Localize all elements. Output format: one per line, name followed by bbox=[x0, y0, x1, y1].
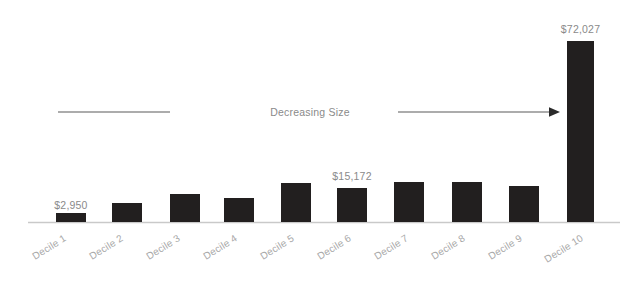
bar-decile-10[interactable] bbox=[567, 41, 594, 222]
x-tick-decile-7: Decile 7 bbox=[372, 232, 410, 261]
chart-canvas: $2,950 $15,172 $72,027 Decreasing Size D… bbox=[0, 0, 637, 284]
bar-decile-4[interactable] bbox=[224, 198, 254, 222]
x-tick-decile-2: Decile 2 bbox=[87, 232, 125, 261]
x-tick-decile-3: Decile 3 bbox=[144, 232, 182, 261]
x-tick-decile-10: Decile 10 bbox=[542, 232, 585, 265]
bar-decile-7[interactable] bbox=[394, 182, 424, 222]
x-tick-decile-4: Decile 4 bbox=[201, 232, 239, 261]
bar-decile-5[interactable] bbox=[281, 183, 311, 222]
bar-decile-2[interactable] bbox=[112, 203, 142, 222]
value-label-decile-1: $2,950 bbox=[54, 199, 87, 211]
bar-chart: $2,950 $15,172 $72,027 Decreasing Size D… bbox=[0, 0, 637, 284]
value-label-decile-6: $15,172 bbox=[332, 170, 371, 182]
x-tick-decile-8: Decile 8 bbox=[429, 232, 467, 261]
x-tick-decile-1: Decile 1 bbox=[30, 232, 68, 261]
value-label-decile-10: $72,027 bbox=[561, 23, 600, 35]
x-tick-decile-6: Decile 6 bbox=[315, 232, 353, 261]
arrow-right-icon bbox=[549, 107, 560, 117]
bar-decile-1[interactable] bbox=[56, 213, 86, 222]
bar-decile-9[interactable] bbox=[509, 186, 539, 222]
bar-decile-3[interactable] bbox=[170, 194, 200, 222]
x-tick-decile-5: Decile 5 bbox=[258, 232, 296, 261]
bar-decile-6[interactable] bbox=[337, 188, 367, 222]
x-tick-decile-9: Decile 9 bbox=[486, 232, 524, 261]
bar-decile-8[interactable] bbox=[452, 182, 482, 222]
decreasing-size-label: Decreasing Size bbox=[270, 106, 349, 118]
